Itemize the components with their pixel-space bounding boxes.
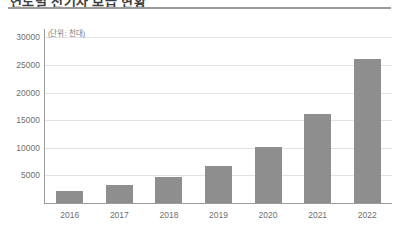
chart-figure: 연도별 전기차 보급 현황 50001000015000200002500030… (0, 0, 399, 237)
x-tick-label: 2021 (308, 210, 327, 220)
plot-area: 50001000015000200002500030000 (단위: 천대) 2… (0, 0, 399, 237)
x-axis-ticks: 2016201720182019202020212022 (0, 0, 399, 237)
x-tick-label: 2018 (159, 210, 178, 220)
x-tick-label: 2022 (358, 210, 377, 220)
x-tick-label: 2016 (60, 210, 79, 220)
x-tick-label: 2020 (259, 210, 278, 220)
x-tick-label: 2017 (110, 210, 129, 220)
x-tick-label: 2019 (209, 210, 228, 220)
